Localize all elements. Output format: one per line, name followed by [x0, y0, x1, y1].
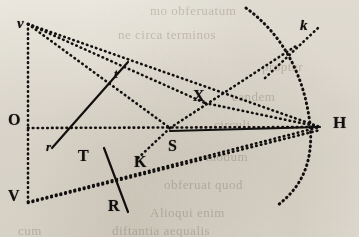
point-label-O: O: [8, 112, 20, 128]
point-label-T: T: [78, 148, 89, 164]
segment-v-to-X-to-H-ray: [28, 24, 205, 103]
arc-great-arc-through-H-and-k: [246, 8, 311, 205]
point-label-k: k: [300, 18, 308, 33]
point-label-H: H: [333, 114, 346, 131]
segment-v-to-S-diagonal: [28, 24, 170, 128]
segment-layer: [28, 24, 320, 212]
figure-canvas: mo obferuatumne circa terminospropterean…: [0, 0, 359, 237]
point-label-K: K: [134, 154, 146, 170]
point-label-S: S: [168, 138, 177, 154]
point-label-t: t: [114, 67, 118, 80]
point-label-V: V: [8, 188, 20, 204]
arc-layer: [246, 8, 311, 205]
point-label-v: v: [17, 16, 24, 31]
point-label-r: r: [46, 140, 51, 153]
segment-S-to-k-upper-ray: [170, 46, 296, 128]
point-label-R: R: [108, 198, 120, 214]
point-label-X: X: [193, 88, 205, 104]
geometry-diagram-svg: [0, 0, 359, 237]
segment-k-ray-through-arc: [265, 28, 318, 78]
